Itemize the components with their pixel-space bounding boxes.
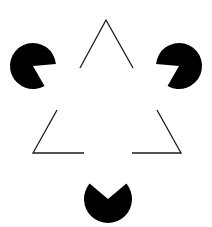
triangle-apex-stroke xyxy=(80,20,133,68)
pacman-left xyxy=(10,43,56,89)
pacman-bottom xyxy=(84,184,132,223)
pacman-right xyxy=(156,43,202,89)
triangle-bottom-right-stroke xyxy=(132,110,181,153)
kanizsa-figure xyxy=(0,0,212,227)
triangle-bottom-left-stroke xyxy=(33,110,84,153)
